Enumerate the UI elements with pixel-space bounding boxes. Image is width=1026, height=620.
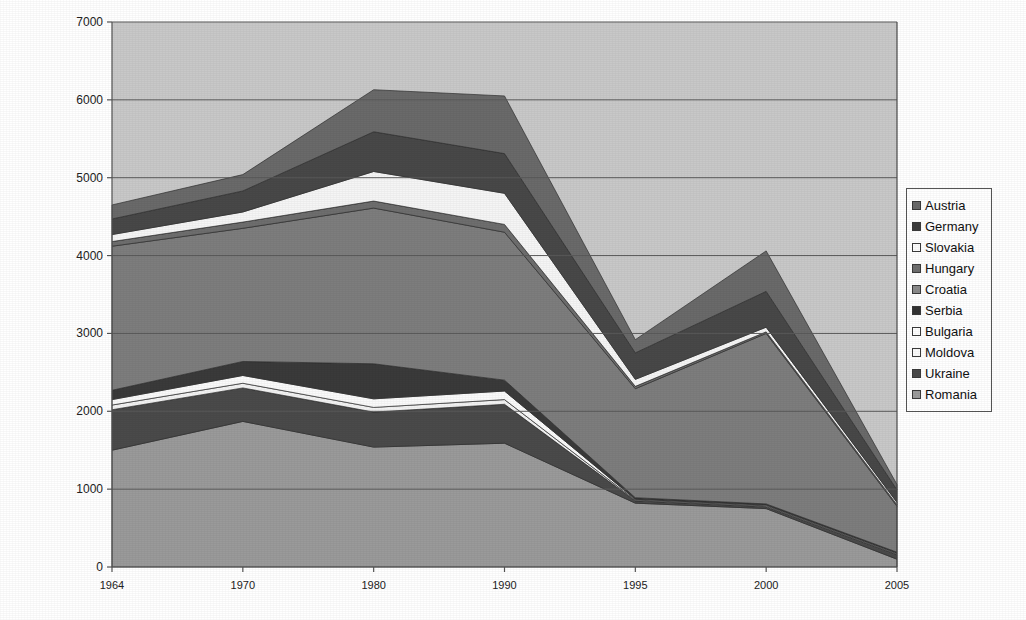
x-tick-label: 1990 (492, 579, 516, 591)
legend-swatch-icon (912, 306, 921, 315)
legend-item-label: Slovakia (925, 237, 974, 258)
legend-swatch-icon (912, 348, 921, 357)
legend-item-label: Moldova (925, 342, 974, 363)
x-tick-label: 1995 (623, 579, 647, 591)
legend-item-romania: Romania (912, 384, 985, 405)
legend-swatch-icon (912, 327, 921, 336)
x-tick-label: 1970 (231, 579, 255, 591)
legend-item-label: Croatia (925, 279, 967, 300)
legend-swatch-icon (912, 390, 921, 399)
legend-swatch-icon (912, 222, 921, 231)
y-tick-label: 3000 (76, 326, 103, 340)
y-tick-label: 7000 (76, 15, 103, 29)
legend-item-slovakia: Slovakia (912, 237, 985, 258)
y-tick-label: 4000 (76, 249, 103, 263)
legend-swatch-icon (912, 201, 921, 210)
legend-item-bulgaria: Bulgaria (912, 321, 985, 342)
legend-item-ukraine: Ukraine (912, 363, 985, 384)
legend-item-label: Hungary (925, 258, 974, 279)
y-tick-label: 0 (96, 560, 103, 574)
y-tick-label: 2000 (76, 404, 103, 418)
chart-canvas: 01000200030004000500060007000 1964197019… (0, 0, 1026, 620)
legend-item-serbia: Serbia (912, 300, 985, 321)
legend-swatch-icon (912, 243, 921, 252)
x-tick-label: 1980 (361, 579, 385, 591)
legend-item-label: Serbia (925, 300, 963, 321)
stacked-area-chart: 01000200030004000500060007000 1964197019… (0, 0, 1026, 620)
legend-item-label: Romania (925, 384, 977, 405)
legend-item-label: Bulgaria (925, 321, 973, 342)
x-axis-tick-labels: 1964197019801990199520002005 (100, 567, 909, 591)
y-tick-label: 1000 (76, 482, 103, 496)
x-tick-label: 2000 (754, 579, 778, 591)
y-axis-tick-labels: 01000200030004000500060007000 (76, 15, 112, 574)
legend-item-label: Ukraine (925, 363, 970, 384)
x-tick-label: 2005 (885, 579, 909, 591)
legend-item-label: Austria (925, 195, 965, 216)
legend-swatch-icon (912, 369, 921, 378)
legend-item-croatia: Croatia (912, 279, 985, 300)
legend-item-moldova: Moldova (912, 342, 985, 363)
y-tick-label: 5000 (76, 171, 103, 185)
chart-legend: AustriaGermanySlovakiaHungaryCroatiaSerb… (906, 188, 992, 412)
legend-item-label: Germany (925, 216, 978, 237)
y-tick-label: 6000 (76, 93, 103, 107)
legend-swatch-icon (912, 285, 921, 294)
x-tick-label: 1964 (100, 579, 124, 591)
legend-swatch-icon (912, 264, 921, 273)
legend-item-germany: Germany (912, 216, 985, 237)
legend-item-hungary: Hungary (912, 258, 985, 279)
legend-item-austria: Austria (912, 195, 985, 216)
